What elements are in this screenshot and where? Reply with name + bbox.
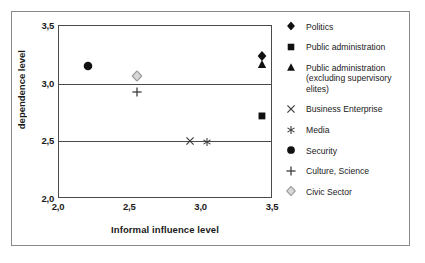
legend-item[interactable]: Public administration (excluding supervi… (286, 62, 406, 94)
data-point-business-enterprise (186, 137, 195, 146)
legend-item-label: Public administration (excluding supervi… (306, 62, 406, 94)
star-icon (286, 125, 306, 136)
legend-item-label: Security (306, 145, 337, 156)
square-filled-icon (286, 42, 306, 53)
plot-area (58, 25, 272, 198)
chart-legend: PoliticsPublic administrationPublic admi… (286, 21, 406, 207)
legend-item-label: Civic Sector (306, 186, 352, 197)
y-tick-label: 3,5 (20, 20, 54, 31)
y-tick-label: 3,0 (20, 77, 54, 88)
x-tick-label: 3,0 (181, 201, 221, 212)
circle-filled-icon (286, 145, 306, 156)
legend-item-label: Business Enterprise (306, 104, 382, 115)
data-point-public-administration (257, 112, 266, 121)
x-axis-title: Informal influence level (58, 224, 272, 235)
legend-item[interactable]: Culture, Science (286, 166, 406, 177)
legend-item[interactable]: Politics (286, 21, 406, 32)
data-point-civic-sector (132, 70, 143, 81)
diamond-open-icon (286, 186, 306, 197)
legend-item[interactable]: Media (286, 125, 406, 136)
legend-item-label: Culture, Science (306, 166, 369, 177)
legend-item[interactable]: Business Enterprise (286, 104, 406, 115)
y-axis-ticks: 2,02,53,03,5 (18, 25, 54, 198)
x-tick-label: 2,5 (109, 201, 149, 212)
x-tick-label: 2,0 (38, 201, 78, 212)
legend-item[interactable]: Civic Sector (286, 186, 406, 197)
legend-item[interactable]: Public administration (286, 42, 406, 53)
legend-item-label: Politics (306, 21, 333, 32)
data-point-media (203, 138, 212, 147)
gridline (59, 84, 271, 85)
legend-item-label: Public administration (306, 42, 385, 53)
y-tick-label: 2,5 (20, 135, 54, 146)
plus-icon (286, 166, 306, 177)
data-point-culture-science (132, 87, 142, 97)
chart-figure: dependence level 2,02,53,03,5 2,02,53,03… (0, 0, 425, 263)
data-point-public-administration-excluding-supervisory-elites (257, 60, 266, 69)
cross-icon (286, 104, 306, 115)
data-point-security (83, 61, 93, 71)
triangle-filled-icon (286, 62, 306, 73)
gridline (59, 141, 271, 142)
diamond-filled-icon (286, 21, 306, 32)
x-axis-ticks: 2,02,53,03,5 (58, 201, 272, 215)
legend-item[interactable]: Security (286, 145, 406, 156)
legend-item-label: Media (306, 125, 329, 136)
